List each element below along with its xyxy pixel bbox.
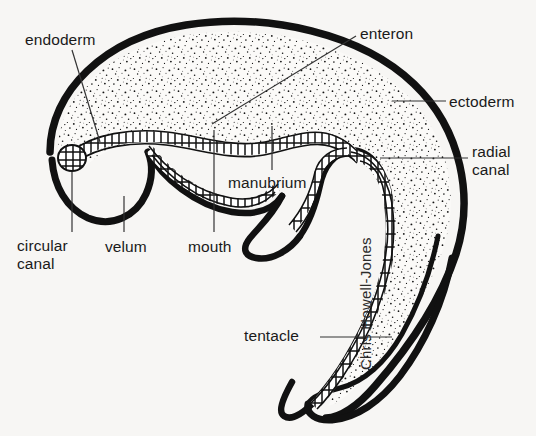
label-endoderm: endoderm xyxy=(25,31,96,48)
label-radial-canal-line2: canal xyxy=(472,161,511,179)
label-mouth: mouth xyxy=(188,238,232,255)
jellyfish-anatomy-figure: endoderm enteron ectoderm radial canal m… xyxy=(0,0,536,436)
label-velum: velum xyxy=(105,238,147,255)
label-circular-canal-line2: canal xyxy=(17,255,95,273)
label-manubrium: manubrium xyxy=(228,174,306,191)
label-enteron: enteron xyxy=(360,25,413,42)
medusa-section-drawing xyxy=(0,0,536,436)
illustrator-credit: Chris Howell-Jones xyxy=(357,210,374,370)
label-circular-canal: circular canal xyxy=(17,237,95,272)
circular-canal-structure xyxy=(58,145,86,171)
label-ectoderm: ectoderm xyxy=(449,93,514,110)
label-tentacle: tentacle xyxy=(244,327,299,344)
label-circular-canal-line1: circular xyxy=(17,237,95,255)
label-radial-canal: radial canal xyxy=(472,143,511,178)
label-radial-canal-line1: radial xyxy=(472,143,511,161)
endoderm-lining xyxy=(72,131,394,409)
